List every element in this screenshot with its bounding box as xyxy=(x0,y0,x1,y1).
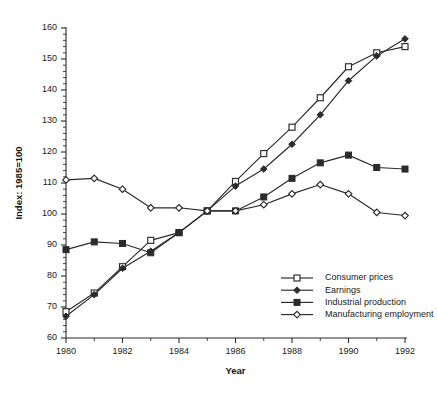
y-tick-label: 100 xyxy=(42,208,57,218)
series-marker-2 xyxy=(402,166,408,172)
series-marker-1 xyxy=(402,36,409,43)
series-marker-2 xyxy=(374,165,380,171)
series-marker-3 xyxy=(91,175,98,182)
series-marker-3 xyxy=(402,212,409,219)
legend-marker-0 xyxy=(294,275,300,281)
x-tick-label: 1980 xyxy=(56,346,76,356)
series-marker-2 xyxy=(176,230,182,236)
series-marker-0 xyxy=(261,151,267,157)
y-tick-label: 70 xyxy=(47,301,57,311)
series-marker-3 xyxy=(345,191,352,198)
y-tick-label: 90 xyxy=(47,239,57,249)
y-tick-label: 120 xyxy=(42,146,57,156)
series-marker-3 xyxy=(147,205,154,212)
x-tick-label: 1984 xyxy=(169,346,189,356)
series-marker-2 xyxy=(289,175,295,181)
y-tick-label: 130 xyxy=(42,115,57,125)
y-tick-label: 150 xyxy=(42,53,57,63)
legend-label-2: Industrial production xyxy=(325,297,406,307)
legend-marker-1 xyxy=(294,287,301,294)
series-marker-0 xyxy=(402,44,408,50)
series-marker-2 xyxy=(261,194,267,200)
series-marker-3 xyxy=(63,177,70,184)
y-tick-label: 80 xyxy=(47,270,57,280)
series-line-2 xyxy=(66,155,405,253)
series-marker-2 xyxy=(91,239,97,245)
y-tick-label: 60 xyxy=(47,332,57,342)
series-marker-0 xyxy=(289,124,295,130)
x-tick-label: 1988 xyxy=(282,346,302,356)
line-chart: 6070809010011012013014015016019801982198… xyxy=(0,0,437,400)
series-marker-3 xyxy=(289,191,296,198)
x-axis-title: Year xyxy=(225,365,245,376)
legend-label-0: Consumer prices xyxy=(325,272,394,282)
legend-label-1: Earnings xyxy=(325,285,361,295)
series-marker-3 xyxy=(373,209,380,216)
series-marker-0 xyxy=(317,95,323,101)
series-marker-2 xyxy=(317,160,323,166)
series-marker-3 xyxy=(317,181,324,188)
x-tick-label: 1982 xyxy=(112,346,132,356)
y-tick-label: 110 xyxy=(43,177,57,187)
series-marker-2 xyxy=(120,240,126,246)
legend-label-3: Manufacturing employment xyxy=(325,309,434,319)
x-tick-label: 1986 xyxy=(225,346,245,356)
series-marker-2 xyxy=(148,250,154,256)
x-tick-label: 1990 xyxy=(338,346,358,356)
series-marker-3 xyxy=(260,201,267,208)
series-marker-0 xyxy=(148,237,154,243)
chart-figure: 6070809010011012013014015016019801982198… xyxy=(0,0,437,400)
series-marker-2 xyxy=(346,152,352,158)
x-tick-label: 1992 xyxy=(395,346,415,356)
series-marker-0 xyxy=(346,64,352,70)
series-marker-2 xyxy=(63,247,69,253)
series-marker-3 xyxy=(119,186,126,193)
y-tick-label: 140 xyxy=(42,84,57,94)
y-tick-label: 160 xyxy=(42,22,57,32)
series-marker-3 xyxy=(176,205,183,212)
legend-marker-3 xyxy=(294,311,301,318)
y-axis-title: Index: 1985=100 xyxy=(13,146,24,219)
legend-marker-2 xyxy=(294,299,300,305)
